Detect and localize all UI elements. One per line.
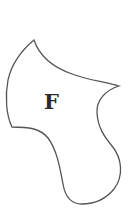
diagram-canvas xyxy=(0,0,137,209)
region-f-outline xyxy=(6,40,120,204)
region-label: F xyxy=(44,90,59,114)
